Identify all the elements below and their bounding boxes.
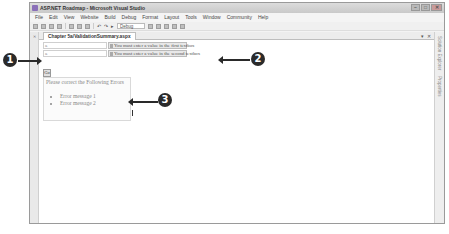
toolbox-icon[interactable]	[172, 24, 177, 29]
summary-header: Please correct the Following Errors	[44, 79, 130, 85]
redo-icon[interactable]: ↷	[104, 23, 108, 29]
summary-error-list: Error message 1 Error message 2	[60, 93, 130, 107]
window-title: ASP.NET Roadmap - Microsoft Visual Studi…	[40, 5, 145, 11]
menu-build[interactable]: Build	[104, 13, 115, 22]
close-button[interactable]: ✕	[431, 4, 442, 11]
toolbar-separator	[93, 23, 94, 29]
validator-first-text: You must enter a value in the first text…	[114, 43, 195, 48]
validator-second-text: You must enter a value in the second tex…	[114, 51, 200, 56]
callout-1-arrow	[18, 60, 38, 62]
design-surface[interactable]: a You must enter a value in the first te…	[39, 40, 434, 223]
maximize-button[interactable]: □	[421, 4, 430, 11]
new-project-icon[interactable]	[33, 24, 38, 29]
right-panel-tabs: Solution Explorer Properties	[434, 32, 444, 223]
visual-studio-window: ASP.NET Roadmap - Microsoft Visual Studi…	[29, 2, 445, 224]
undo-icon[interactable]: ↶	[97, 23, 101, 29]
save-icon[interactable]	[49, 24, 54, 29]
tab-dropdown-icon[interactable]: ▾	[421, 33, 424, 39]
properties-icon[interactable]	[164, 24, 169, 29]
object-browser-icon[interactable]	[180, 24, 185, 29]
toolbox-icon: ✕	[30, 34, 38, 39]
minimize-button[interactable]: –	[411, 4, 420, 11]
go-button[interactable]: Go	[43, 69, 51, 77]
menu-layout[interactable]: Layout	[164, 13, 179, 22]
required-validator-first[interactable]: You must enter a value in the first text…	[108, 42, 187, 49]
document-tab-row: Chapter 5a/ValidationSummary.aspx ▾ ✕	[39, 32, 434, 40]
menu-website[interactable]: Website	[80, 13, 98, 22]
cut-icon[interactable]	[69, 24, 74, 29]
menu-file[interactable]: File	[35, 13, 43, 22]
tab-validationsummary-aspx[interactable]: Chapter 5a/ValidationSummary.aspx	[43, 32, 136, 40]
save-all-icon[interactable]	[57, 24, 62, 29]
callout-2-arrow	[222, 59, 250, 61]
control-glyph-icon	[110, 44, 113, 48]
title-bar: ASP.NET Roadmap - Microsoft Visual Studi…	[30, 3, 444, 13]
menu-tools[interactable]: Tools	[185, 13, 197, 22]
menu-edit[interactable]: Edit	[49, 13, 58, 22]
control-glyph-icon	[110, 52, 113, 56]
paste-icon[interactable]	[85, 24, 90, 29]
visual-studio-icon	[32, 5, 38, 11]
standard-toolbar: ↶ ↷ ▸ Debug	[30, 22, 444, 31]
menu-debug[interactable]: Debug	[122, 13, 137, 22]
required-validator-second[interactable]: You must enter a value in the second tex…	[108, 50, 187, 57]
add-item-icon[interactable]	[41, 24, 46, 29]
callout-2: 2	[251, 52, 265, 66]
callout-3: 3	[158, 93, 172, 107]
callout-1: 1	[3, 53, 17, 67]
validation-summary[interactable]: Please correct the Following Errors Erro…	[43, 77, 131, 121]
properties-tab[interactable]: Properties	[437, 76, 442, 97]
callout-3-arrow	[132, 101, 158, 103]
toolbar-separator	[65, 23, 66, 29]
textbox-first[interactable]: a	[43, 42, 107, 49]
copy-icon[interactable]	[77, 24, 82, 29]
solution-explorer-icon[interactable]	[156, 24, 161, 29]
menu-view[interactable]: View	[64, 13, 75, 22]
menu-bar: File Edit View Website Build Debug Forma…	[30, 13, 444, 22]
summary-error-item: Error message 1	[60, 93, 130, 100]
window-controls: – □ ✕	[411, 4, 442, 11]
solution-explorer-tab[interactable]: Solution Explorer	[437, 36, 442, 70]
textbox-second[interactable]: a	[43, 50, 107, 57]
menu-community[interactable]: Community	[227, 13, 252, 22]
close-tab-icon[interactable]: ✕	[427, 33, 431, 39]
tab-controls: ▾ ✕	[421, 33, 431, 39]
menu-help[interactable]: Help	[258, 13, 268, 22]
text-cursor	[132, 110, 133, 116]
summary-error-item: Error message 2	[60, 100, 130, 107]
solution-configuration-select[interactable]: Debug	[117, 23, 145, 29]
menu-window[interactable]: Window	[203, 13, 221, 22]
start-debugging-icon[interactable]: ▸	[111, 23, 114, 29]
find-icon[interactable]	[148, 24, 153, 29]
menu-format[interactable]: Format	[142, 13, 158, 22]
